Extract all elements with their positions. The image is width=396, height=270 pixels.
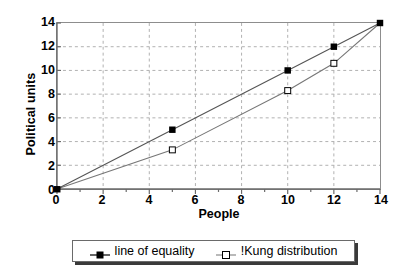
legend-entry-line-of-equality[interactable]: line of equality (90, 245, 195, 258)
x-tick-label-8: 8 (228, 193, 254, 207)
x-tick-label-10: 10 (275, 193, 301, 207)
x-tick-label-4: 4 (136, 193, 162, 207)
x-tick-label-6: 6 (182, 193, 208, 207)
plot-canvas (57, 23, 380, 189)
x-tick-label-2: 2 (89, 193, 115, 207)
legend-label-line-of-equality: line of equality (115, 245, 195, 258)
x-tick-label-0: 0 (43, 193, 69, 207)
filled-square-marker-icon (90, 246, 110, 256)
y-tick-label-12: 12 (29, 39, 55, 53)
plot-area (56, 22, 381, 190)
y-tick-label-10: 10 (29, 63, 55, 77)
lorenz-curve-chart: Political units (0, 0, 396, 270)
x-tick-label-12: 12 (321, 193, 347, 207)
legend-entry-kung-distribution[interactable]: !Kung distribution (216, 245, 338, 258)
x-axis-title: People (56, 207, 382, 221)
y-tick-label-4: 4 (29, 135, 55, 149)
y-tick-label-6: 6 (29, 111, 55, 125)
y-tick-label-14: 14 (29, 15, 55, 29)
y-tick-label-8: 8 (29, 87, 55, 101)
x-tick-label-14: 14 (368, 193, 394, 207)
y-tick-label-2: 2 (29, 159, 55, 173)
chart-legend: line of equality !Kung distribution (72, 240, 355, 262)
open-square-marker-icon (216, 246, 236, 256)
legend-label-kung-distribution: !Kung distribution (241, 245, 338, 258)
